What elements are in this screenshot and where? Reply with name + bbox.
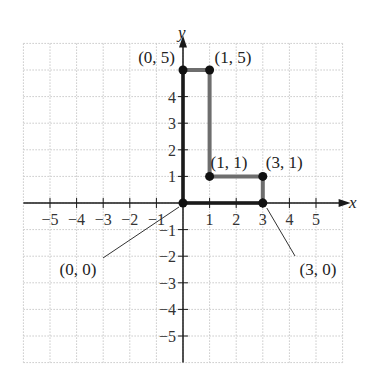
svg-text:2: 2 xyxy=(232,211,240,228)
svg-text:−4: −4 xyxy=(68,211,85,228)
svg-text:−2: −2 xyxy=(159,248,176,265)
svg-text:5: 5 xyxy=(312,211,320,228)
svg-text:3: 3 xyxy=(168,115,176,132)
svg-text:−5: −5 xyxy=(41,211,58,228)
axes xyxy=(23,35,350,362)
l-shape-polygon xyxy=(183,70,263,203)
svg-text:2: 2 xyxy=(168,142,176,159)
svg-text:−3: −3 xyxy=(159,275,176,292)
svg-text:−1: −1 xyxy=(159,222,176,239)
svg-text:4: 4 xyxy=(285,211,293,228)
svg-text:1: 1 xyxy=(206,211,214,228)
svg-text:4: 4 xyxy=(168,89,176,106)
svg-text:−3: −3 xyxy=(95,211,112,228)
svg-text:−2: −2 xyxy=(121,211,138,228)
svg-text:(0, 5): (0, 5) xyxy=(138,48,175,67)
svg-text:(3, 1): (3, 1) xyxy=(266,153,303,172)
svg-text:(0, 0): (0, 0) xyxy=(60,260,97,279)
svg-text:(1, 5): (1, 5) xyxy=(215,48,252,67)
coordinate-plane: −5−4−3−2−112345−5−4−3−2−11234 (0, 5)(1, … xyxy=(0,0,374,376)
svg-text:−4: −4 xyxy=(159,301,176,318)
tick-labels: −5−4−3−2−112345−5−4−3−2−11234 xyxy=(41,89,320,345)
svg-text:(3, 0): (3, 0) xyxy=(300,260,337,279)
data-points xyxy=(179,66,268,208)
svg-text:1: 1 xyxy=(168,168,176,185)
y-axis-label: y xyxy=(176,23,186,42)
x-axis-label: x xyxy=(348,193,357,212)
svg-text:(1, 1): (1, 1) xyxy=(211,153,248,172)
svg-text:−5: −5 xyxy=(159,328,176,345)
point-labels: (0, 5)(1, 5)(1, 1)(3, 1)(0, 0)(3, 0) xyxy=(60,48,337,279)
svg-text:3: 3 xyxy=(259,211,267,228)
